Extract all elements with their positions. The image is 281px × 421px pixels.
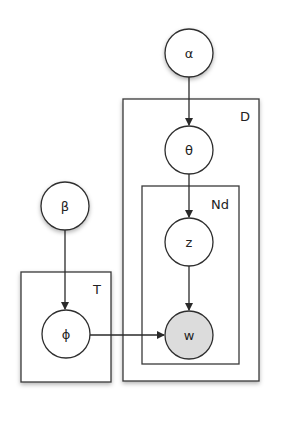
node-z-label: z bbox=[186, 235, 193, 250]
node-alpha-label: α bbox=[185, 46, 194, 61]
plate-t-label: T bbox=[92, 282, 101, 297]
node-z: z bbox=[165, 218, 213, 266]
node-theta: θ bbox=[165, 126, 213, 174]
node-phi-label: ϕ bbox=[62, 327, 71, 342]
node-beta: β bbox=[41, 182, 89, 230]
node-w-label: w bbox=[184, 328, 195, 343]
node-alpha: α bbox=[165, 29, 213, 77]
lda-plate-diagram: D Nd T α θ z w β ϕ bbox=[0, 0, 281, 421]
node-beta-label: β bbox=[61, 199, 69, 214]
node-theta-label: θ bbox=[185, 143, 193, 158]
node-phi: ϕ bbox=[42, 310, 90, 358]
plate-d-label: D bbox=[240, 109, 250, 124]
plate-nd-label: Nd bbox=[211, 197, 229, 212]
node-w-observed: w bbox=[165, 311, 213, 359]
